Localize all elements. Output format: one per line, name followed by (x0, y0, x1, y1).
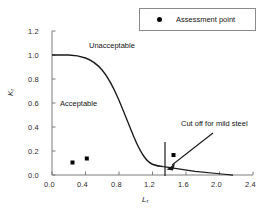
failure-assessment-curve (52, 55, 164, 167)
x-tick-label-1: 0.4 (77, 180, 88, 189)
assessment-point-marker (85, 157, 89, 161)
y-tick-label-5: 1.0 (28, 51, 39, 60)
x-tick-label-5: 2.0 (211, 180, 222, 189)
curve-tail-line (164, 167, 234, 176)
y-axis-title-wrap: Kr (6, 96, 20, 110)
y-axis-ticks (52, 31, 56, 175)
legend-marker-icon (157, 17, 162, 22)
assessment-point-marker (172, 153, 176, 157)
y-axis-title-sub: r (9, 89, 15, 91)
y-tick-label-4: 0.8 (28, 75, 39, 84)
y-axis-title-main: K (6, 91, 15, 96)
legend-label: Assessment point (176, 15, 235, 24)
x-tick-label-6: 2.4 (245, 180, 256, 189)
y-tick-label-0: 0.0 (28, 171, 39, 180)
x-tick-label-2: 0.8 (111, 180, 122, 189)
x-tick-label-0: 0.0 (44, 180, 55, 189)
legend: Assessment point (139, 8, 256, 31)
y-tick-label-6: 1.2 (28, 27, 39, 36)
y-tick-label-1: 0.2 (28, 147, 39, 156)
annotation-leader-line (172, 133, 213, 165)
failure-assessment-diagram: 0.0 0.2 0.4 0.6 0.8 1.0 1.2 0.0 0.4 0.8 … (0, 0, 267, 221)
x-axis-title-sub: r (146, 198, 148, 204)
x-tick-label-4: 1.6 (178, 180, 189, 189)
x-axis-title: Lr (142, 195, 148, 204)
annotation-cut-off-for-mild-steel: Cut off for mild steel (181, 119, 248, 128)
legend-item-assessment-point: Assessment point (140, 9, 255, 30)
assessment-point-marker (71, 161, 75, 165)
chart-plot-area (0, 0, 267, 221)
region-label-unacceptable: Unacceptable (89, 41, 135, 50)
y-axis-title: Kr (6, 89, 15, 96)
y-tick-label-3: 0.6 (28, 99, 39, 108)
y-tick-label-2: 0.4 (28, 123, 39, 132)
x-tick-label-3: 1.2 (144, 180, 155, 189)
region-label-acceptable: Acceptable (60, 99, 97, 108)
assessment-point-group (71, 153, 176, 165)
